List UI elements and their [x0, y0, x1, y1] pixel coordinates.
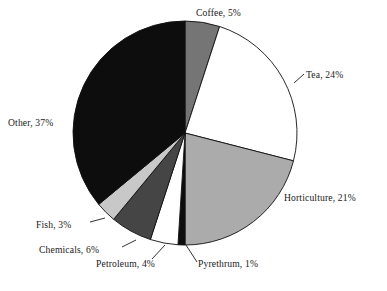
pie-label-petroleum: Petroleum, 4% — [96, 258, 155, 269]
leader-line-chemicals — [122, 240, 136, 247]
pie-chart-canvas: Coffee, 5%Tea, 24%Horticulture, 21%Pyret… — [0, 0, 387, 291]
leader-line-pyrethrum — [186, 245, 197, 262]
leader-line-fish — [90, 218, 105, 222]
pie-chart-figure: Coffee, 5%Tea, 24%Horticulture, 21%Pyret… — [0, 0, 387, 291]
pie-label-fish: Fish, 3% — [36, 219, 71, 230]
pie-label-chemicals: Chemicals, 6% — [39, 244, 99, 255]
leader-line-tea — [294, 74, 304, 83]
pie-label-horticulture: Horticulture, 21% — [284, 192, 356, 203]
leader-line-petroleum — [152, 245, 165, 259]
pie-label-other: Other, 37% — [8, 117, 53, 128]
pie-label-pyrethrum: Pyrethrum, 1% — [198, 258, 258, 269]
pie-label-tea: Tea, 24% — [306, 69, 343, 80]
pie-slices-group — [73, 21, 297, 245]
pie-label-coffee: Coffee, 5% — [196, 7, 241, 18]
